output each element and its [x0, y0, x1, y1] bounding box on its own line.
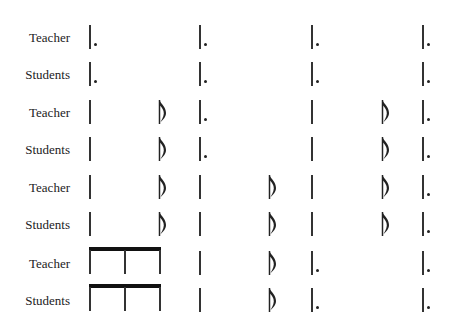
- rhythm-row-6: Students: [0, 211, 460, 241]
- staccato-dot: [427, 155, 430, 158]
- quarter-note-stem: [199, 100, 201, 124]
- quarter-note-stem: [311, 212, 313, 236]
- row-label: Teacher: [0, 30, 70, 46]
- quarter-note-stem: [199, 175, 201, 199]
- staccato-dot: [427, 269, 430, 272]
- staccato-dot: [94, 80, 97, 83]
- row-label: Students: [0, 293, 70, 309]
- staccato-dot: [316, 306, 319, 309]
- staccato-dot: [204, 155, 207, 158]
- quarter-note-stem: [422, 175, 424, 199]
- rhythm-row-2: Students: [0, 61, 460, 91]
- quarter-note-stem: [422, 62, 424, 86]
- row-label: Teacher: [0, 105, 70, 121]
- beamed-triplet-icon: [89, 284, 162, 314]
- quarter-note-stem: [199, 62, 201, 86]
- quarter-note-stem: [422, 251, 424, 275]
- stem: [159, 250, 161, 274]
- stem: [89, 250, 91, 274]
- staccato-dot: [427, 43, 430, 46]
- quarter-note-stem: [422, 212, 424, 236]
- quarter-note-stem: [89, 62, 91, 86]
- row-label: Students: [0, 142, 70, 158]
- quarter-note-stem: [422, 100, 424, 124]
- beamed-triplet-icon: [89, 247, 162, 277]
- quarter-note-stem: [89, 175, 91, 199]
- rhythm-row-7: Teacher: [0, 250, 460, 280]
- staccato-dot: [427, 118, 430, 121]
- staccato-dot: [94, 43, 97, 46]
- stem: [89, 287, 91, 311]
- quarter-note-stem: [199, 251, 201, 275]
- stem: [124, 250, 126, 274]
- row-label: Teacher: [0, 180, 70, 196]
- quarter-note-stem: [89, 25, 91, 49]
- row-label: Students: [0, 217, 70, 233]
- quarter-note-stem: [422, 25, 424, 49]
- quarter-note-stem: [422, 137, 424, 161]
- stem: [159, 287, 161, 311]
- staccato-dot: [316, 80, 319, 83]
- quarter-note-stem: [311, 251, 313, 275]
- quarter-note-stem: [311, 100, 313, 124]
- rhythm-row-4: Students: [0, 136, 460, 166]
- staccato-dot: [316, 269, 319, 272]
- stem: [124, 287, 126, 311]
- quarter-note-stem: [89, 212, 91, 236]
- staccato-dot: [204, 118, 207, 121]
- quarter-note-stem: [199, 212, 201, 236]
- quarter-note-stem: [311, 175, 313, 199]
- quarter-note-stem: [89, 137, 91, 161]
- quarter-note-stem: [311, 137, 313, 161]
- quarter-note-stem: [311, 62, 313, 86]
- staccato-dot: [427, 230, 430, 233]
- quarter-note-stem: [89, 100, 91, 124]
- staccato-dot: [427, 306, 430, 309]
- row-label: Students: [0, 67, 70, 83]
- quarter-note-stem: [422, 288, 424, 312]
- staccato-dot: [427, 193, 430, 196]
- rhythm-row-3: Teacher: [0, 99, 460, 129]
- rhythm-row-1: Teacher: [0, 24, 460, 54]
- quarter-note-stem: [199, 137, 201, 161]
- staccato-dot: [204, 80, 207, 83]
- row-label: Teacher: [0, 256, 70, 272]
- rhythm-row-8: Students: [0, 287, 460, 317]
- quarter-note-stem: [311, 25, 313, 49]
- quarter-note-stem: [311, 288, 313, 312]
- staccato-dot: [204, 43, 207, 46]
- staccato-dot: [427, 80, 430, 83]
- rhythm-row-5: Teacher: [0, 174, 460, 204]
- staccato-dot: [316, 43, 319, 46]
- quarter-note-stem: [199, 288, 201, 312]
- quarter-note-stem: [199, 25, 201, 49]
